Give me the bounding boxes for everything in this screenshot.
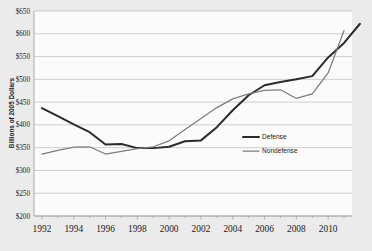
x-axis-tick-label: 2010 (319, 224, 338, 234)
y-axis-title: Billions of 2005 Dollars (8, 77, 15, 148)
x-axis-tick-label: 2002 (192, 224, 211, 234)
y-axis-tick-label: $500 (16, 76, 31, 84)
x-axis-tick-label: 1992 (33, 224, 52, 234)
x-axis-tick-label: 1998 (128, 224, 147, 234)
y-axis-tick-label: $650 (16, 8, 31, 16)
y-axis-tick-label: $350 (16, 144, 31, 152)
y-axis-tick-label: $550 (16, 53, 31, 61)
line-chart: $200$250$300$350$400$450$500$550$600$650… (0, 0, 372, 251)
plot-area-background (34, 11, 352, 216)
x-axis-tick-label: 2004 (223, 224, 242, 234)
x-axis-tick-label: 2006 (255, 224, 274, 234)
y-axis-tick-label: $450 (16, 99, 31, 107)
y-axis-tick-label: $600 (16, 30, 31, 38)
x-axis-tick-label: 2008 (287, 224, 306, 234)
y-axis-tick-label: $250 (16, 190, 31, 198)
y-axis-tick-label: $400 (16, 121, 31, 129)
x-axis-tick-label: 1994 (64, 224, 83, 234)
chart-figure: $200$250$300$350$400$450$500$550$600$650… (0, 0, 372, 251)
y-axis-tick-label: $200 (16, 213, 31, 221)
y-axis-tick-label: $300 (16, 167, 31, 175)
x-axis-tick-label: 2000 (160, 224, 179, 234)
x-axis-tick-label: 1996 (96, 224, 115, 234)
legend-label-nondefense: Nondefense (262, 147, 298, 154)
legend-label-defense: Defense (262, 133, 287, 140)
